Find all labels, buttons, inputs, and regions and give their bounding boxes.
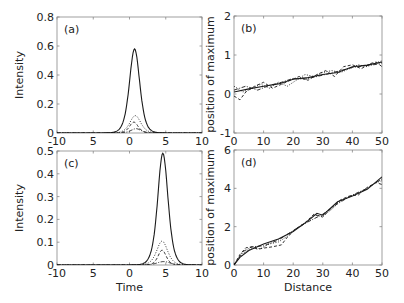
panel-a: -105051000.20.40.60.8(a)Intensity — [13, 11, 209, 148]
panel-label: (d) — [241, 156, 257, 169]
x-tick-label: 0 — [126, 135, 133, 148]
panel-c: -105051000.10.20.30.40.5(c)IntensityTime — [13, 145, 209, 294]
series-dashdot — [234, 63, 382, 90]
y-tick-label: 2 — [224, 221, 231, 234]
x-tick-label: 0 — [126, 267, 133, 280]
panel-label: (b) — [241, 22, 257, 35]
x-tick-label: 0 — [231, 135, 238, 148]
x-tick-label: 5 — [90, 267, 97, 280]
series-solid — [234, 177, 382, 265]
series-solid — [57, 49, 202, 133]
series-solid — [57, 153, 202, 265]
series-dashed — [234, 183, 382, 265]
figure-canvas: -105051000.20.40.60.8(a)Intensity 010203… — [0, 0, 404, 303]
series-dashdot — [234, 179, 382, 265]
y-tick-label: 0.1 — [37, 236, 55, 249]
y-tick-label: 0 — [224, 88, 231, 101]
y-axis-label: position of maximum — [204, 16, 217, 133]
x-tick-label: 30 — [316, 135, 330, 148]
panel-label: (a) — [64, 23, 79, 36]
x-tick-label: 20 — [286, 135, 300, 148]
x-tick-label: 20 — [286, 267, 300, 280]
x-tick-label: 0 — [231, 267, 238, 280]
y-tick-label: 0.2 — [37, 98, 55, 111]
x-tick-label: 50 — [375, 135, 389, 148]
x-tick-label: 10 — [257, 267, 271, 280]
y-tick-label: 2 — [224, 10, 231, 23]
x-tick-label: 40 — [345, 267, 359, 280]
x-tick-label: 10 — [195, 135, 209, 148]
x-tick-label: 30 — [316, 267, 330, 280]
y-tick-label: 4 — [224, 182, 231, 195]
figure: -105051000.20.40.60.8(a)Intensity 010203… — [0, 0, 404, 303]
y-axis-label: Intensity — [13, 184, 26, 232]
y-axis-label: position of maximum — [204, 149, 217, 266]
y-tick-label: 0 — [224, 259, 231, 272]
series-dotted — [57, 116, 202, 133]
y-tick-label: 0.6 — [37, 40, 55, 53]
x-tick-label: 10 — [257, 135, 271, 148]
series-dotted — [57, 241, 202, 265]
x-tick-label: 10 — [195, 267, 209, 280]
series-dashed — [234, 62, 382, 100]
x-tick-label: 5 — [162, 135, 169, 148]
y-tick-label: 6 — [224, 144, 231, 157]
x-tick-label: 5 — [90, 135, 97, 148]
y-tick-label: -1 — [220, 127, 231, 140]
y-axis-label: Intensity — [13, 51, 26, 99]
plot-frame — [57, 151, 202, 265]
x-tick-label: 40 — [345, 135, 359, 148]
y-tick-label: 0 — [47, 127, 54, 140]
y-tick-label: 0.8 — [37, 11, 55, 24]
y-tick-label: 0.4 — [37, 69, 55, 82]
x-tick-label: 50 — [375, 267, 389, 280]
y-tick-label: 0.3 — [37, 191, 55, 204]
panel-label: (c) — [64, 157, 79, 170]
y-tick-label: 0.5 — [37, 145, 55, 158]
y-tick-label: 0.2 — [37, 213, 55, 226]
x-tick-label: 5 — [162, 267, 169, 280]
x-axis-label: Distance — [284, 281, 332, 294]
x-axis-label: Time — [115, 281, 143, 294]
y-tick-label: 0.4 — [37, 168, 55, 181]
y-tick-label: 1 — [224, 49, 231, 62]
panel-d: 010203040500246(d)position of maximumDis… — [204, 144, 389, 294]
y-tick-label: 0 — [47, 259, 54, 272]
panel-b: 01020304050-1012(b)position of maximum — [204, 10, 389, 148]
